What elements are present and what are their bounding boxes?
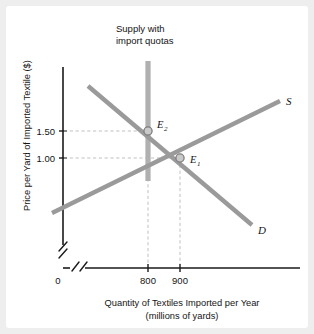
equilibrium-marker-e2 — [144, 127, 152, 135]
x-axis-break-icon — [72, 262, 87, 271]
supply-curve-label: S — [286, 95, 292, 107]
y-tick-label-150: 1.50 — [37, 126, 56, 137]
x-tick-label-900: 900 — [172, 275, 188, 286]
y-tick-label-100: 1.00 — [37, 153, 56, 164]
y-axis-title: Price per Yard of Imported Textile ($) — [22, 60, 32, 211]
equilibrium-marker-e1 — [176, 154, 184, 162]
equilibrium-label-e1: E 1 — [189, 154, 201, 168]
quota-annotation-line2: import quotas — [116, 35, 174, 46]
equilibrium-label-e1-letter: E — [189, 154, 197, 165]
quota-annotation-line1: Supply with — [116, 23, 165, 34]
demand-curve-label: D — [257, 224, 266, 236]
supply-demand-chart: Price per Yard of Imported Textile ($) 1… — [6, 6, 308, 328]
equilibrium-label-e2-subscript: 2 — [164, 125, 168, 133]
equilibrium-label-e2: E 2 — [156, 119, 168, 133]
equilibrium-label-e1-subscript: 1 — [197, 160, 201, 168]
x-axis-title-line1: Quantity of Textiles Imported per Year — [105, 298, 260, 308]
demand-curve — [88, 86, 252, 225]
x-axis-title-line2: (millions of yards) — [146, 311, 219, 321]
x-tick-label-800: 800 — [140, 275, 156, 286]
origin-label: 0 — [55, 275, 60, 286]
equilibrium-label-e2-letter: E — [156, 119, 164, 130]
supply-curve — [52, 101, 280, 213]
figure-card: Price per Yard of Imported Textile ($) 1… — [6, 6, 308, 328]
